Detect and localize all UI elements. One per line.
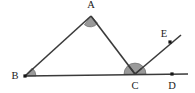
labels-group: A B C D E — [11, 0, 176, 91]
geometry-diagram: A B C D E — [0, 0, 195, 93]
vertex-label-D: D — [168, 80, 176, 91]
point-dots-group — [23, 40, 173, 77]
vertex-label-B: B — [11, 70, 18, 81]
angle-marks-group — [25, 16, 146, 76]
vertex-label-C: C — [131, 80, 138, 91]
segment-AC — [91, 16, 135, 74]
point-dot-B — [23, 74, 26, 77]
vertex-label-E: E — [161, 28, 167, 39]
ray-CE — [135, 35, 181, 74]
line-BD — [25, 74, 188, 76]
geometry-canvas: A B C D E — [0, 0, 195, 93]
point-dot-D — [170, 72, 173, 75]
segment-BA — [25, 16, 91, 76]
segments-group — [25, 16, 188, 76]
vertex-label-A: A — [87, 0, 95, 10]
point-dot-E — [168, 40, 171, 43]
